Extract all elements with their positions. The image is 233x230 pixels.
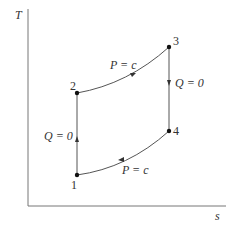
point-4-label: 4 — [173, 124, 179, 138]
arrow-down-icon — [167, 80, 171, 86]
point-2-label: 2 — [70, 79, 76, 93]
point-1-dot — [75, 173, 79, 177]
point-3-label: 3 — [173, 34, 179, 48]
y-axis-label: T — [15, 8, 23, 22]
process-2-3-label: P = c — [109, 58, 137, 72]
point-1-label: 1 — [71, 178, 77, 192]
ts-diagram: T s 1 2 3 4 Q = 0 P = c Q = 0 P = c — [0, 0, 233, 230]
point-4-dot — [167, 129, 171, 133]
point-3-dot — [167, 45, 171, 49]
arrow-up-icon — [75, 136, 79, 142]
arrow-right-icon — [130, 73, 136, 77]
process-1-2-label: Q = 0 — [44, 129, 73, 143]
arrow-left-icon — [118, 157, 124, 162]
process-3-4-label: Q = 0 — [175, 76, 204, 90]
x-axis-label: s — [215, 209, 220, 223]
process-4-1-label: P = c — [121, 163, 149, 177]
